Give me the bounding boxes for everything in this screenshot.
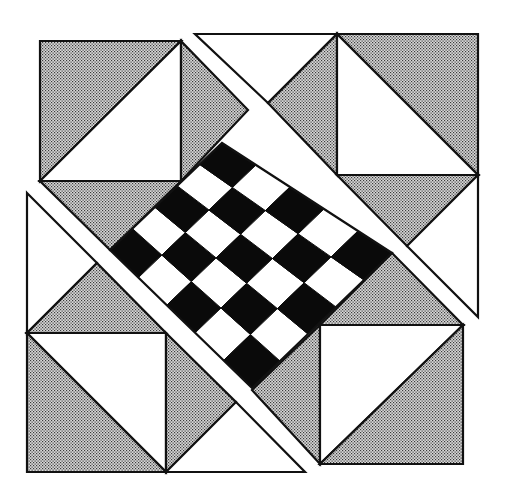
quilt-block-diagram: Quilt block: checkerboard diamond with h…: [0, 0, 505, 491]
quilt-block-svg: [0, 0, 505, 491]
